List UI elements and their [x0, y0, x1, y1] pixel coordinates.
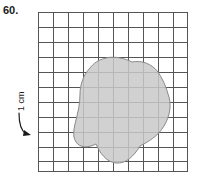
grid-with-region-figure: [38, 12, 194, 172]
problem-number-label: 60.: [3, 4, 18, 17]
figure-page: 60. 1 cm: [0, 0, 206, 177]
